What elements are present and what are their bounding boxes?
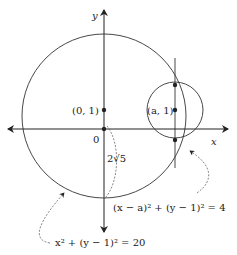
origin-label: 0 xyxy=(93,134,99,145)
diagram: y x 0 (0, 1) (a, 1) 2√5 (x − a)² + (y − … xyxy=(0,0,237,255)
label-eq-small: (x − a)² + (y − 1)² = 4 xyxy=(113,202,226,213)
point-intersection-top xyxy=(173,83,177,87)
x-axis-label: x xyxy=(211,136,217,147)
label-center-small: (a, 1) xyxy=(147,105,174,116)
pointer-small-eq xyxy=(190,151,209,193)
pointer-big-eq xyxy=(39,193,64,243)
label-radius: 2√5 xyxy=(107,153,126,164)
point-center-big xyxy=(102,108,106,112)
label-center-big: (0, 1) xyxy=(72,105,99,116)
point-intersection-bottom xyxy=(173,138,177,142)
y-axis-label: y xyxy=(91,10,98,21)
point-origin xyxy=(102,127,106,131)
label-eq-big: x² + (y − 1)² = 20 xyxy=(55,237,145,248)
